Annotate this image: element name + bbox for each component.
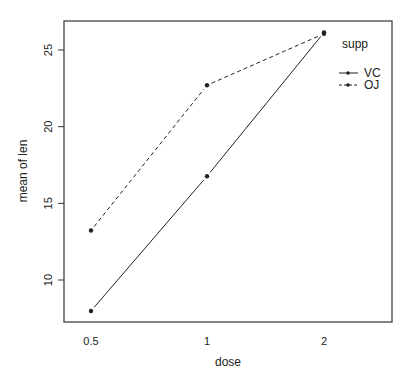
legend-marker (346, 71, 350, 75)
series-line-vc (94, 180, 203, 307)
legend-marker (346, 83, 350, 87)
y-tick-label: 15 (42, 197, 54, 209)
legend-title: supp (342, 37, 368, 51)
legend: supp VCOJ (339, 37, 381, 92)
y-axis-label: mean of len (16, 140, 30, 203)
series-line-vc (210, 36, 321, 172)
x-axis-label: dose (215, 355, 241, 369)
x-tick-label: 0.5 (83, 335, 98, 347)
legend-label-oj: OJ (364, 78, 379, 92)
interaction-plot: 10152025 0.512 dose mean of len supp VCO… (0, 0, 414, 389)
x-tick-label: 2 (321, 335, 327, 347)
plot-frame (64, 21, 392, 322)
y-tick-label: 10 (42, 274, 54, 286)
x-tick-label: 1 (204, 335, 210, 347)
y-tick-label: 20 (42, 121, 54, 133)
series-lines (89, 30, 326, 313)
y-tick-label: 25 (42, 44, 54, 56)
series-line-oj (94, 89, 204, 226)
data-point (205, 83, 209, 87)
data-point (89, 228, 93, 232)
series-line-oj (212, 36, 320, 83)
y-axis: 10152025 (42, 44, 64, 286)
data-point (89, 309, 93, 313)
data-point (322, 32, 326, 36)
data-point (205, 174, 209, 178)
x-axis: 0.512 (83, 335, 327, 347)
